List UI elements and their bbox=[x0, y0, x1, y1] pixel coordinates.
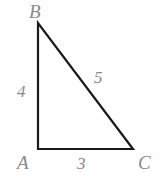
side-length-label-ab: 4 bbox=[17, 83, 26, 100]
triangle-outline bbox=[38, 23, 133, 149]
side-length-label-ac: 3 bbox=[77, 155, 86, 172]
vertex-label-c: C bbox=[138, 153, 151, 172]
vertex-label-b: B bbox=[29, 2, 41, 21]
side-length-label-bc: 5 bbox=[94, 69, 103, 86]
triangle-diagram: B A C 4 5 3 bbox=[0, 0, 165, 176]
vertex-label-a: A bbox=[17, 153, 29, 172]
